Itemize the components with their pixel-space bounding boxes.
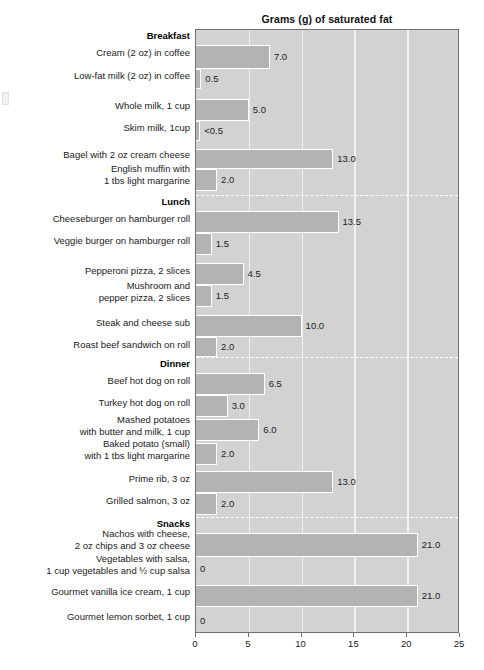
section-header-lunch: Lunch — [0, 196, 190, 208]
bar-value-label: 5.0 — [253, 105, 266, 115]
bar-value-label: 3.0 — [232, 401, 245, 411]
bar-value-label: 1.5 — [216, 239, 229, 249]
bar — [196, 233, 212, 255]
category-label: Cheeseburger on hamburger roll — [0, 213, 190, 225]
plot-area: 7.00.55.0<0.513.02.013.51.54.51.510.02.0… — [195, 29, 459, 633]
x-tick-mark — [459, 633, 460, 637]
category-label: Nachos with cheese, 2 oz chips and 3 oz … — [0, 528, 190, 551]
bar-value-label: 21.0 — [422, 540, 441, 550]
bar-value-label: 0 — [200, 564, 205, 574]
bar-value-label: 7.0 — [274, 52, 287, 62]
x-tick-label: 10 — [288, 638, 314, 649]
section-header-dinner: Dinner — [0, 358, 190, 370]
x-tick-label: 20 — [393, 638, 419, 649]
bar-value-label: 13.0 — [337, 154, 356, 164]
bar — [196, 395, 228, 417]
category-label: Mashed potatoes with butter and milk, 1 … — [0, 414, 190, 437]
category-label: Prime rib, 3 oz — [0, 473, 190, 485]
category-label: Whole milk, 1 cup — [0, 100, 190, 112]
bar — [196, 443, 217, 465]
bar-value-label: 6.0 — [263, 425, 276, 435]
category-label: English muffin with 1 tbs light margarin… — [0, 163, 190, 186]
category-label: Cream (2 oz) in coffee — [0, 47, 190, 59]
bar-value-label: 0 — [200, 616, 205, 626]
x-tick-label: 5 — [235, 638, 261, 649]
bar — [196, 69, 201, 89]
bar — [196, 585, 418, 607]
bar-value-label: 2.0 — [221, 499, 234, 509]
category-label: Gourmet lemon sorbet, 1 cup — [0, 611, 190, 623]
category-label: Skim milk, 1cup — [0, 122, 190, 134]
bar — [196, 471, 333, 493]
category-label: Beef hot dog on roll — [0, 375, 190, 387]
bar — [196, 373, 265, 395]
chart-title: Grams (g) of saturated fat — [195, 13, 459, 25]
bar-value-label: 4.5 — [248, 269, 261, 279]
bar-value-label: 6.5 — [269, 379, 282, 389]
category-label: Gourmet vanilla ice cream, 1 cup — [0, 586, 190, 598]
bar-value-label: 21.0 — [422, 591, 441, 601]
bar — [196, 263, 244, 285]
x-tick-mark — [406, 633, 407, 637]
category-label: Veggie burger on hamburger roll — [0, 235, 190, 247]
x-tick-mark — [195, 633, 196, 637]
x-tick-label: 0 — [182, 638, 208, 649]
bar-value-label: 2.0 — [221, 175, 234, 185]
section-header-breakfast: Breakfast — [0, 30, 190, 42]
bar — [196, 533, 418, 557]
x-tick-mark — [248, 633, 249, 637]
bar — [196, 337, 217, 357]
x-tick-label: 15 — [340, 638, 366, 649]
category-label: Roast beef sandwich on roll — [0, 339, 190, 351]
category-label: Bagel with 2 oz cream cheese — [0, 149, 190, 161]
section-separator — [196, 195, 458, 196]
saturated-fat-bar-chart: Grams (g) of saturated fat 7.00.55.0<0.5… — [0, 0, 484, 670]
x-tick-mark — [301, 633, 302, 637]
section-separator — [196, 517, 458, 518]
x-tick-label: 25 — [446, 638, 472, 649]
bar — [196, 99, 249, 121]
category-label: Grilled salmon, 3 oz — [0, 495, 190, 507]
section-separator — [196, 357, 458, 358]
bar — [196, 45, 270, 69]
bar — [196, 169, 217, 191]
bar — [196, 211, 339, 233]
bar-value-label: 10.0 — [306, 321, 325, 331]
category-label: Steak and cheese sub — [0, 317, 190, 329]
bar-value-label: 13.5 — [343, 217, 362, 227]
bar — [196, 315, 302, 337]
bar-value-label: 2.0 — [221, 449, 234, 459]
bar — [196, 149, 333, 169]
category-label: Pepperoni pizza, 2 slices — [0, 265, 190, 277]
bar-value-label: 13.0 — [337, 477, 356, 487]
category-label: Low-fat milk (2 oz) in coffee — [0, 70, 190, 82]
bar — [196, 493, 217, 515]
bar-value-label: <0.5 — [204, 126, 223, 136]
bar — [196, 121, 200, 141]
category-label: Vegetables with salsa, 1 cup vegetables … — [0, 553, 190, 576]
bar — [196, 419, 259, 441]
bar-value-label: 2.0 — [221, 342, 234, 352]
bar-value-label: 1.5 — [216, 291, 229, 301]
x-tick-mark — [353, 633, 354, 637]
category-label: Baked potato (small) with 1 tbs light ma… — [0, 438, 190, 461]
category-label: Turkey hot dog on roll — [0, 397, 190, 409]
category-label: Mushroom and pepper pizza, 2 slices — [0, 280, 190, 303]
bar-value-label: 0.5 — [205, 74, 218, 84]
bar — [196, 285, 212, 307]
